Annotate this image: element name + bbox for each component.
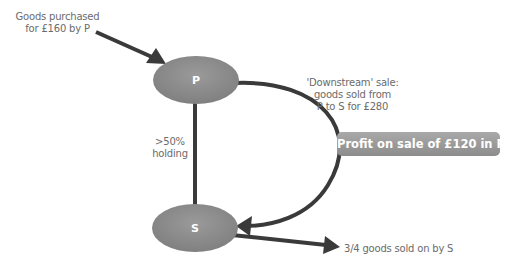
downstream-label-line: 'Downstream' sale: — [300, 77, 405, 89]
purchase-arrow — [96, 32, 152, 57]
node-p-label: P — [192, 74, 200, 87]
holding-label-line: holding — [150, 148, 190, 160]
profit-badge: Profit on sale of £120 in P — [337, 132, 500, 156]
downstream-label-line: P to S for £280 — [300, 101, 405, 113]
downstream-label: 'Downstream' sale: goods sold from P to … — [300, 77, 405, 113]
downstream-label-line: goods sold from — [300, 89, 405, 101]
sold-on-arrow — [232, 235, 326, 245]
downstream-arrowhead — [236, 216, 252, 236]
sold-on-arrowhead — [323, 236, 340, 254]
sold-on-label: 3/4 goods sold on by S — [344, 243, 464, 255]
purchase-label: Goods purchased for £160 by P — [10, 11, 105, 35]
purchase-label-line: for £160 by P — [10, 23, 105, 35]
node-s-label: S — [191, 222, 199, 235]
holding-label-line: >50% — [150, 136, 190, 148]
purchase-label-line: Goods purchased — [10, 11, 105, 23]
holding-label: >50% holding — [150, 136, 190, 160]
